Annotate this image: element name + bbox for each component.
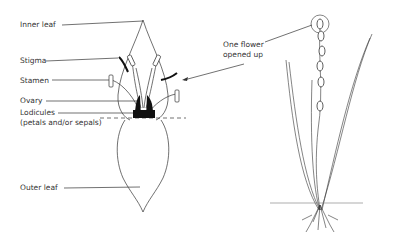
label-lodicules: Lodicules: [20, 108, 55, 117]
label-ovary: Ovary: [20, 96, 42, 105]
label-lodicules-sub: (petals and/or sepals): [20, 118, 102, 127]
callout-arrowhead: [182, 77, 188, 81]
anther-4: [153, 55, 161, 67]
anther-2: [175, 90, 179, 102]
outer-leaf-outline: [117, 120, 169, 212]
inner-leaf-leader: [62, 21, 143, 25]
label-outer-leaf: Outer leaf: [20, 183, 58, 192]
label-stigma: Stigma: [20, 56, 46, 65]
callout-to-circle: [265, 25, 312, 42]
label-inner-leaf: Inner leaf: [20, 20, 56, 29]
anther-3: [127, 55, 135, 67]
stigma-leader: [46, 58, 118, 61]
label-callout-line2: opened up: [223, 50, 263, 59]
label-callout-line1: One flower: [223, 40, 264, 49]
anther-1: [109, 75, 113, 87]
label-stamen: Stamen: [20, 76, 49, 85]
spikelets: [317, 19, 325, 111]
callout-arrow-line: [184, 64, 244, 80]
